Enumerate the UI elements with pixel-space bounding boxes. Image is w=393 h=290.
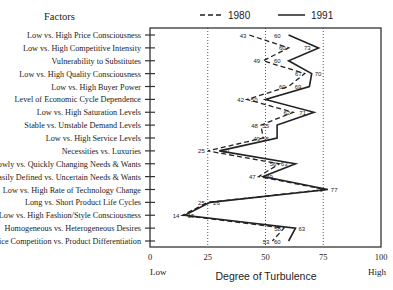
x-tick-label: 75 xyxy=(319,252,328,262)
factor-label: Low vs. High Competitive Intensity xyxy=(23,44,142,53)
label-1980: 60 xyxy=(279,45,286,51)
label-1980: 47 xyxy=(249,174,256,180)
legend-1991-label: 1991 xyxy=(311,10,334,21)
label-1991: 50 xyxy=(251,97,258,103)
label-1980: 42 xyxy=(237,97,244,103)
x-tick-label: 0 xyxy=(148,252,152,262)
label-1991: 49 xyxy=(266,174,273,180)
label-1991: 69 xyxy=(295,84,302,90)
factor-label: Slowly vs. Quickly Changing Needs & Want… xyxy=(0,160,141,169)
label-1980: 49 xyxy=(254,136,261,142)
factor-label: Low vs. High Rate of Technology Change xyxy=(3,186,142,195)
label-1980: 53 xyxy=(263,239,270,245)
factor-label: Low vs. High Price Consciousness xyxy=(27,31,141,40)
label-1980: 49 xyxy=(254,58,261,64)
data-labels: 4360607349606770606942506271485549552530… xyxy=(173,33,339,245)
factor-labels: Low vs. High Price ConsciousnessLow vs. … xyxy=(0,31,142,246)
label-1980: 43 xyxy=(240,33,247,39)
label-1991: 30 xyxy=(222,148,229,154)
label-1991: 55 xyxy=(262,136,269,142)
label-1991: 73 xyxy=(304,45,311,51)
label-1991: 63 xyxy=(299,226,306,232)
label-1991: 77 xyxy=(331,187,338,193)
label-1991: 15 xyxy=(188,213,195,219)
label-1980: 25 xyxy=(198,200,205,206)
label-1991: 71 xyxy=(299,110,306,116)
label-1980: 67 xyxy=(295,71,302,77)
x-tick-labels: 0255075100 xyxy=(148,252,388,262)
turbulence-profile-chart: Factors 1980 1991 Low vs. High Price Con… xyxy=(0,0,393,290)
factor-label: Necessities vs. Luxuries xyxy=(62,147,141,156)
factor-label: Low vs. High Service Levels xyxy=(46,134,141,143)
factor-label: Price Competition vs. Product Differenti… xyxy=(0,237,141,246)
label-1980: 14 xyxy=(173,213,180,219)
label-1980: 60 xyxy=(279,84,286,90)
factor-label: Easily Defined vs. Uncertain Needs & Wan… xyxy=(0,173,141,182)
x-high-label: High xyxy=(368,267,387,277)
label-1980: 58 xyxy=(274,226,281,232)
x-tick-label: 50 xyxy=(261,252,270,262)
factor-label: Low vs. High Buyer Power xyxy=(51,83,141,92)
x-axis-title: Degree of Turbulence xyxy=(216,270,317,282)
label-1991: 55 xyxy=(262,123,269,129)
label-1991: 60 xyxy=(274,58,281,64)
label-1991: 26 xyxy=(213,200,220,206)
factor-label: Homogeneous vs. Heterogeneous Desires xyxy=(5,224,141,233)
x-tick-label: 100 xyxy=(375,252,388,262)
x-low-label: Low xyxy=(150,267,167,277)
factor-label: Vulnerability to Substitutes xyxy=(51,57,141,66)
label-1980: 76 xyxy=(316,187,323,193)
label-1980: 56 xyxy=(270,161,277,167)
label-1991: 60 xyxy=(274,239,281,245)
factors-header: Factors xyxy=(44,11,75,22)
factor-label: Long vs. Short Product Life Cycles xyxy=(25,198,141,207)
label-1991: 70 xyxy=(315,71,322,77)
label-1991: 63 xyxy=(281,161,288,167)
factor-label: Low vs. High Fashion/Style Consciousness xyxy=(0,211,141,220)
x-tick-label: 25 xyxy=(204,252,213,262)
label-1980: 25 xyxy=(198,148,205,154)
factor-label: Stable vs. Unstable Demand Levels xyxy=(24,121,141,130)
label-1980: 62 xyxy=(284,110,291,116)
legend-1980-label: 1980 xyxy=(228,10,251,21)
factor-label: Level of Economic Cycle Dependence xyxy=(15,95,142,104)
legend: 1980 1991 xyxy=(200,10,334,21)
factor-label: Low vs. High Saturation Levels xyxy=(37,108,141,117)
label-1980: 48 xyxy=(251,123,258,129)
label-1991: 60 xyxy=(274,33,281,39)
factor-label: Low vs. High Quality Consciousness xyxy=(19,70,141,79)
